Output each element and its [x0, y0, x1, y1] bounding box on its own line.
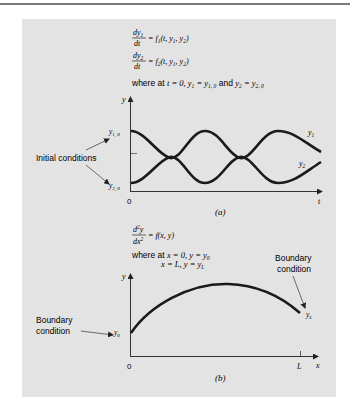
arrow-to-y10 [86, 139, 109, 150]
curve-y2 [131, 157, 321, 183]
figure-svg: dy1 dt = f1(t, y1, y2) dy2 dt = f2(t, y1… [0, 0, 350, 413]
svg-text:dt: dt [134, 39, 141, 48]
equation-d2y-dx2: d2y dx2 = f(x, y) [132, 224, 174, 246]
t-axis-label: t [318, 197, 321, 206]
equation-dy2-dt: dy2 dt = f2(t, y1, y2) [132, 51, 189, 71]
label-y1: y1 [307, 128, 315, 138]
svg-text:d2y: d2y [133, 224, 144, 234]
part-a: dy1 dt = f1(t, y1, y2) dy2 dt = f2(t, y1… [36, 28, 322, 217]
caption-b: (b) [215, 373, 226, 383]
caption-a: (a) [215, 207, 226, 217]
label-y2: y2 [298, 159, 306, 169]
svg-text:= f(x, y): = f(x, y) [148, 231, 174, 240]
origin-label-a: 0 [127, 197, 132, 206]
x-axis-label-b: x [315, 361, 320, 370]
label-yL: yL [305, 310, 312, 320]
label-y20: y2, 0 [108, 181, 120, 192]
part-b: d2y dx2 = f(x, y) where at x = 0, y = y0… [36, 224, 320, 383]
curve-y1 [131, 131, 321, 158]
initial-condition-text: where at t = 0, y1 = y1, 0 and y2 = y2, … [131, 78, 264, 89]
annotation-boundary-left-1: Boundary [36, 315, 73, 325]
equation-dy1-dt: dy1 dt = f1(t, y1, y2) [132, 28, 189, 48]
svg-text:dy1: dy1 [133, 28, 144, 38]
y-axis-label-b: y [121, 272, 126, 281]
svg-text:= f1(t, y1, y2): = f1(t, y1, y2) [148, 34, 189, 44]
L-label: L [296, 362, 302, 371]
svg-text:= f2(t, y1, y2): = f2(t, y1, y2) [148, 57, 189, 67]
curve-y-of-x [131, 284, 300, 333]
svg-text:dt: dt [134, 62, 141, 71]
label-y10: y1, 0 [108, 127, 120, 138]
svg-text:dy2: dy2 [133, 51, 144, 61]
arrow-to-y0 [81, 331, 113, 335]
annotation-boundary-right-2: condition [277, 264, 311, 274]
origin-label-b: 0 [127, 362, 132, 371]
annotation-initial-conditions: Initial conditions [36, 153, 96, 163]
label-y0: y0 [113, 328, 120, 338]
svg-text:dx2: dx2 [133, 236, 144, 246]
annotation-boundary-right-1: Boundary [275, 253, 312, 263]
y-axis-label-a: y [121, 95, 126, 104]
boundary-condition-text-2: x = L, y = yL [160, 259, 204, 270]
arrow-to-yL [293, 276, 305, 308]
annotation-boundary-left-2: condition [36, 326, 70, 336]
arrow-to-y20 [86, 165, 109, 184]
